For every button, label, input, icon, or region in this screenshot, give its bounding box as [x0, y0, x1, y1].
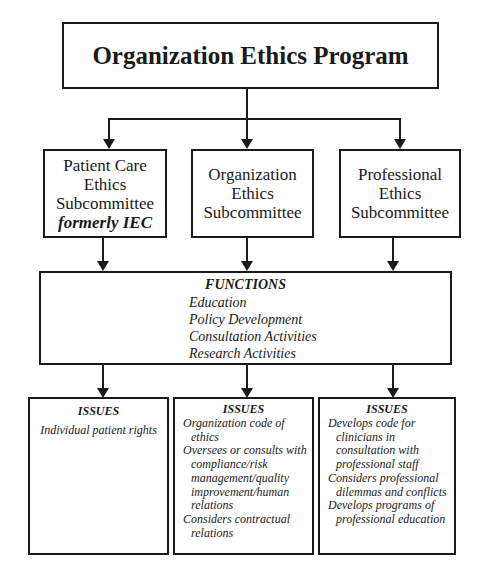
issues-heading: ISSUES: [30, 404, 167, 419]
arrow-down-icon: [241, 139, 253, 149]
connector-line: [246, 88, 248, 119]
issue-item: Oversees or consults with compliance/ris…: [183, 444, 308, 513]
arrow-down-icon: [394, 139, 406, 149]
issues-list: Develops code for clinicians in consulta…: [320, 417, 454, 527]
subcommittee-line: Subcommittee: [351, 203, 449, 222]
issues-heading: ISSUES: [320, 402, 454, 417]
subcommittee-professional: Professional Ethics Subcommittee: [339, 149, 461, 238]
issue-item: Considers contractual relations: [183, 513, 309, 540]
connector-line: [392, 237, 394, 262]
function-item: Education: [189, 294, 317, 311]
connector-line: [246, 237, 248, 262]
subcommittee-line: Patient Care: [63, 156, 147, 175]
subcommittee-line: Ethics: [84, 175, 127, 194]
connector-line: [246, 364, 248, 389]
connector-line: [108, 118, 110, 140]
issue-item: Considers professional dilemmas and conf…: [328, 472, 450, 499]
function-item: Research Activities: [189, 345, 317, 362]
issues-heading: ISSUES: [175, 402, 312, 417]
function-item: Consultation Activities: [189, 328, 317, 345]
issues-patient-care: ISSUES Individual patient rights: [28, 397, 169, 555]
functions-box: FUNCTIONS Education Policy Development C…: [39, 271, 452, 365]
subcommittee-line: Subcommittee: [203, 203, 301, 222]
subcommittee-line: Professional: [358, 165, 442, 184]
connector-line: [102, 364, 104, 389]
function-item: Policy Development: [189, 311, 317, 328]
issue-item: Develops code for clinicians in consulta…: [328, 417, 436, 472]
arrow-down-icon: [387, 261, 399, 271]
issue-item: Organization code of ethics: [183, 417, 291, 444]
program-box: Organization Ethics Program: [62, 22, 439, 89]
issues-professional: ISSUES Develops code for clinicians in c…: [318, 397, 456, 555]
subcommittee-line: Organization: [208, 165, 296, 184]
connector-line: [102, 237, 104, 262]
subcommittee-patient-care: Patient Care Ethics Subcommittee formerl…: [43, 149, 167, 238]
functions-heading: FUNCTIONS: [41, 277, 450, 293]
subcommittee-note: formerly IEC: [58, 213, 152, 232]
connector-line: [108, 118, 401, 120]
program-title: Organization Ethics Program: [64, 42, 437, 70]
connector-line: [246, 118, 248, 140]
subcommittee-line: Ethics: [231, 184, 274, 203]
issues-organization: ISSUES Organization code of ethics Overs…: [173, 397, 314, 555]
issue-item: Individual patient rights: [30, 423, 167, 438]
arrow-down-icon: [103, 139, 115, 149]
arrow-down-icon: [97, 261, 109, 271]
connector-line: [399, 118, 401, 140]
connector-line: [392, 364, 394, 389]
functions-list: Education Policy Development Consultatio…: [189, 294, 317, 362]
subcommittee-organization: Organization Ethics Subcommittee: [191, 149, 314, 238]
subcommittee-line: Subcommittee: [56, 194, 154, 213]
arrow-down-icon: [241, 261, 253, 271]
issue-item: Develops programs of professional educat…: [328, 499, 456, 526]
issues-list: Organization code of ethics Oversees or …: [175, 417, 312, 540]
subcommittee-line: Ethics: [379, 184, 422, 203]
